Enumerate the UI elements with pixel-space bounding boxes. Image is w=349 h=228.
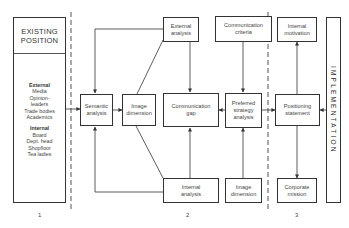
existing-position-title: EXISTINGPOSITION [14,18,65,54]
label: Positioning [284,103,311,110]
internal-item: Tea ladies [14,151,65,157]
label: dimension [126,110,152,117]
label: Semantic [85,103,108,110]
label: Communication [224,22,263,29]
label: analysis [85,110,108,117]
semantic-analysis-box: Semanticanalysis [80,94,113,126]
label: Image [231,184,257,191]
title-line-1: EXISTING [21,27,58,36]
label: strategy [232,107,255,114]
existing-position-box: EXISTINGPOSITION External Media Opinion-… [13,17,66,203]
external-analysis-box: Externalanalysis [163,17,199,42]
implementation-label: IMPLEMENTATION [330,66,337,154]
corporate-mission-box: Corporatemission [277,178,317,203]
label: Preferred [232,100,255,107]
label: statement [284,110,311,117]
positioning-statement-box: Positioningstatement [275,94,320,126]
internal-motivation-box: Internalmotivation [277,17,317,42]
communication-gap-box: Communicationgap [163,93,219,127]
section-number-3: 3 [295,212,298,218]
label: External [171,23,192,30]
label: dimension [231,191,257,198]
label: Corporate [285,184,310,191]
title-line-2: POSITION [21,36,58,45]
image-dimension-box: Imagedimension [122,94,156,126]
preferred-strategy-analysis-box: Preferredstrategyanalysis [225,93,262,128]
stakeholder-list: External Media Opinion- leaders Trade bo… [14,54,65,157]
label: Internal [181,184,201,191]
label: Image [126,103,152,110]
label: Internal [284,23,310,30]
section-number-1: 1 [38,212,41,218]
label: analysis [171,30,192,37]
label: motivation [284,30,310,37]
label: analysis [181,191,201,198]
implementation-box: IMPLEMENTATION [326,17,341,203]
label: gap [172,110,211,117]
label: analysis [232,114,255,121]
communication-criteria-box: Communicationcriteria [215,16,272,42]
internal-analysis-box: Internalanalysis [163,178,219,203]
label: criteria [224,29,263,36]
image-dimension-bottom-box: Imagedimension [225,178,262,203]
section-number-2: 2 [186,212,189,218]
label: mission [285,191,310,198]
label: Communication [172,103,211,110]
